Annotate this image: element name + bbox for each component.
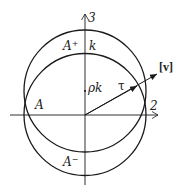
axis-label-2: 2 xyxy=(149,99,158,113)
diagram-canvas: 3 2 A+ k ρk τ [v] A A− xyxy=(0,0,188,189)
label-k: k xyxy=(89,39,96,53)
label-a-plus: A+ xyxy=(62,39,78,53)
rho-k-point xyxy=(84,90,86,92)
label-rho-k: ρk xyxy=(87,81,102,95)
label-a-left: A xyxy=(34,98,44,112)
label-tau: τ xyxy=(118,79,125,93)
label-v: [v] xyxy=(159,60,173,74)
axis-label-3: 3 xyxy=(88,11,96,25)
label-a-minus: A− xyxy=(62,155,78,169)
